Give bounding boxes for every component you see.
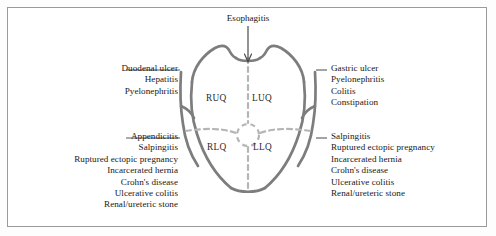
transumbilical-right bbox=[260, 129, 310, 133]
esophagitis-label: Esophagitis bbox=[0, 13, 496, 23]
condition-item: Ulcerative colitis bbox=[74, 188, 178, 199]
lower-left-condition-list: Appendicitis Salpingitis Ruptured ectopi… bbox=[74, 131, 178, 211]
condition-item: Salpingitis bbox=[74, 142, 178, 153]
quadrant-label-llq: LLQ bbox=[253, 142, 272, 152]
condition-item: Colitis bbox=[331, 86, 384, 97]
esophagitis-arrow bbox=[245, 26, 252, 62]
condition-item: Duodenal ulcer bbox=[121, 63, 178, 74]
condition-item: Ulcerative colitis bbox=[331, 177, 435, 188]
condition-item: Constipation bbox=[331, 97, 384, 108]
quadrant-label-ruq: RUQ bbox=[206, 93, 227, 103]
condition-item: Salpingitis bbox=[331, 131, 435, 142]
transumbilical-left bbox=[186, 129, 236, 133]
quadrant-label-luq: LUQ bbox=[252, 93, 272, 103]
condition-item: Renal/ureteric stone bbox=[74, 199, 178, 210]
condition-item: Incarcerated hernia bbox=[74, 165, 178, 176]
condition-item: Pyelonephritis bbox=[331, 74, 384, 85]
condition-item: Crohn's disease bbox=[331, 165, 435, 176]
upper-right-condition-list: Gastric ulcer Pyelonephritis Colitis Con… bbox=[331, 63, 384, 109]
condition-item: Ruptured ectopic pregnancy bbox=[331, 142, 435, 153]
condition-item: Hepatitis bbox=[121, 74, 178, 85]
abdominal-quadrants-figure: Esophagitis Duodenal ulcer Hepatitis Pye… bbox=[0, 0, 496, 236]
condition-item: Ruptured ectopic pregnancy bbox=[74, 154, 178, 165]
quadrant-label-rlq: RLQ bbox=[207, 142, 227, 152]
upper-left-condition-list: Duodenal ulcer Hepatitis Pyelonephritis bbox=[121, 63, 178, 97]
lower-right-condition-list: Salpingitis Ruptured ectopic pregnancy I… bbox=[331, 131, 435, 199]
condition-item: Appendicitis bbox=[74, 131, 178, 142]
condition-item: Incarcerated hernia bbox=[331, 154, 435, 165]
condition-item: Renal/ureteric stone bbox=[331, 188, 435, 199]
quadrant-dividers bbox=[186, 58, 310, 190]
condition-item: Pyelonephritis bbox=[121, 86, 178, 97]
condition-item: Gastric ulcer bbox=[331, 63, 384, 74]
condition-item: Crohn's disease bbox=[74, 177, 178, 188]
